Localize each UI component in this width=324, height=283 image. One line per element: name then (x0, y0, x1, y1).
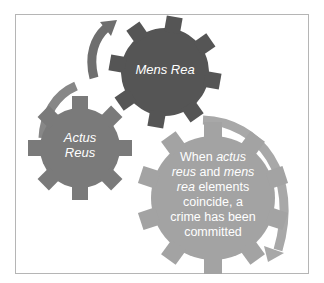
coincide-text: When actus reus and mens rea elements co… (153, 150, 273, 240)
coincide-line-5: crime has been (153, 210, 273, 225)
actus-reus-label-line1: Actus (40, 130, 120, 145)
text-elements: elements (195, 180, 249, 194)
text-reus: reus (172, 165, 196, 179)
actus-reus-label-line2: Reus (40, 145, 120, 160)
text-actus: actus (216, 150, 246, 164)
text-mens: mens (224, 165, 255, 179)
coincide-line-6: committed (153, 225, 273, 240)
text-when: When (180, 150, 216, 164)
coincide-line-1: When actus (153, 150, 273, 165)
coincide-line-4: coincide, a (153, 195, 273, 210)
actus-reus-label: Actus Reus (40, 130, 120, 161)
coincide-line-2: reus and mens (153, 165, 273, 180)
text-rea: rea (177, 180, 195, 194)
mens-rea-label: Mens Rea (115, 62, 215, 77)
text-and: and (196, 165, 224, 179)
coincide-line-3: rea elements (153, 180, 273, 195)
